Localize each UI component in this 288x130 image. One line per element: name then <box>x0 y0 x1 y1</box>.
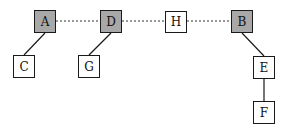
node-H: H <box>165 11 187 33</box>
node-B-label: B <box>238 15 247 29</box>
node-D-label: D <box>106 15 116 29</box>
node-E: E <box>253 56 275 79</box>
node-G-label: G <box>84 60 94 74</box>
node-D: D <box>100 10 122 33</box>
edge-D-G <box>89 33 111 55</box>
edge-A-C <box>24 33 45 55</box>
node-B: B <box>231 10 253 33</box>
node-A-label: A <box>41 15 50 29</box>
tree-diagram: A D H B C G E F <box>0 0 288 130</box>
node-F: F <box>253 101 275 124</box>
node-F-label: F <box>260 106 268 120</box>
node-C: C <box>13 55 35 78</box>
edge-B-E <box>242 33 264 56</box>
node-C-label: C <box>19 60 28 74</box>
node-A: A <box>34 10 56 33</box>
node-H-label: H <box>171 15 181 29</box>
node-G: G <box>78 55 100 78</box>
node-E-label: E <box>260 61 269 75</box>
